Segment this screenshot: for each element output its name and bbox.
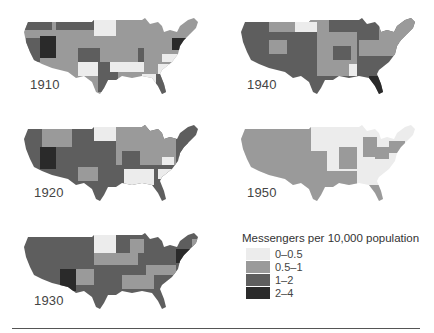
legend-label: 0.5–1 — [275, 261, 303, 273]
year-label: 1940 — [247, 77, 277, 92]
map-1920: 1920 — [12, 117, 212, 212]
legend-item: 0–0.5 — [242, 247, 419, 260]
year-label: 1930 — [34, 293, 64, 308]
map-1940: 1940 — [229, 10, 429, 105]
legend-title: Messengers per 10,000 population — [242, 232, 419, 244]
year-label: 1950 — [247, 185, 277, 200]
year-label: 1920 — [34, 185, 64, 200]
legend-item: 1–2 — [242, 273, 419, 286]
legend-label: 0–0.5 — [275, 248, 303, 260]
legend-item: 2–4 — [242, 286, 419, 299]
legend-item: 0.5–1 — [242, 260, 419, 273]
legend-label: 1–2 — [275, 274, 293, 286]
legend-swatch — [246, 248, 270, 260]
map-1950: 1950 — [229, 117, 429, 212]
legend: Messengers per 10,000 population 0–0.5 0… — [242, 232, 419, 299]
map-1930: 1930 — [12, 225, 212, 320]
legend-swatch — [246, 287, 270, 299]
year-label: 1910 — [30, 77, 60, 92]
legend-label: 2–4 — [275, 287, 293, 299]
map-1910: 1910 — [12, 10, 212, 105]
legend-swatch — [246, 274, 270, 286]
bottom-rule — [12, 328, 420, 329]
legend-swatch — [246, 261, 270, 273]
